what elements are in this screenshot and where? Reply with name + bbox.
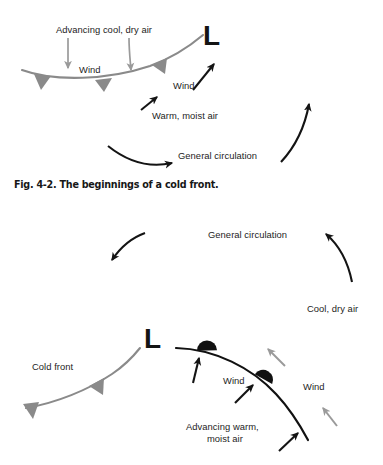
label-bottom-wind-right: Wind [303,381,325,392]
label-advancing-warm-line1: Advancing warm, [186,421,259,432]
label-top-wind-left: Wind [79,64,101,75]
figure-caption: Fig. 4-2. The beginnings of a cold front… [14,179,218,191]
low-pressure-symbol-bottom: L [144,325,161,353]
top-general-circulation-arrow [108,146,172,165]
bottom-circulation-arrow-right [326,234,352,282]
label-cool-dry-air: Cool, dry air [307,303,358,314]
figure-graphics [0,0,383,465]
label-top-wind-right: Wind [173,80,195,91]
top-warm-moist-air-arrow [141,97,157,110]
bottom-cold-front-line [26,348,140,408]
label-top-general-circulation: General circulation [178,150,257,161]
label-cold-front: Cold front [32,361,73,372]
label-bottom-wind-middle: Wind [223,375,245,386]
bottom-circulation-arrow-left [112,233,145,260]
label-bottom-general-circulation: General circulation [208,229,287,240]
top-wind-arrow-right [193,64,214,90]
label-advancing-warm-line2: moist air [207,433,243,444]
label-warm-moist-air: Warm, moist air [152,110,218,121]
weather-front-figure: Advancing cool, dry air Wind L Wind Warm… [0,0,383,465]
top-right-circulation-arrow [281,104,309,162]
label-advancing-cool-dry-air: Advancing cool, dry air [56,24,152,35]
low-pressure-symbol-top: L [203,22,220,50]
top-cold-front-line [22,35,203,78]
